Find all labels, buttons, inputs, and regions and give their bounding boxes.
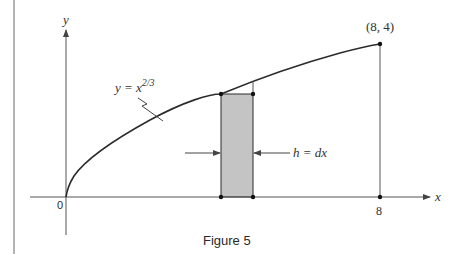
curve-label: y = x2/3 xyxy=(113,77,155,95)
curve-label-base: y = x xyxy=(113,80,142,95)
figure-caption: Figure 5 xyxy=(203,233,251,248)
point-8-4 xyxy=(378,42,382,46)
x-tick-8-label: 8 xyxy=(376,204,382,218)
shaded-strip xyxy=(221,94,253,197)
strip-bottom-left-point xyxy=(219,195,223,199)
width-label: h = dx xyxy=(293,145,327,160)
strip-top-right-point xyxy=(251,92,255,96)
strip-top-left-point xyxy=(219,92,223,96)
y-axis-label: y xyxy=(61,12,69,27)
strip-bottom-right-point xyxy=(251,195,255,199)
endpoint-label: (8, 4) xyxy=(366,19,394,34)
figure-canvas: y x 0 8 (8, 4) y = x2/3 h = dx Figure 5 xyxy=(0,0,468,254)
curve-label-exponent: 2/3 xyxy=(142,77,155,88)
x-axis-label: x xyxy=(434,189,441,204)
origin-label: 0 xyxy=(57,199,63,211)
curve-label-leader xyxy=(138,98,163,121)
x8-point xyxy=(378,195,382,199)
